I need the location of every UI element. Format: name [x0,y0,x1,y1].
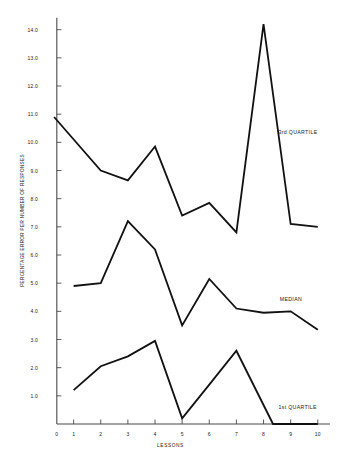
y-tick-label: 3.0 [12,337,38,343]
y-tick-label: 11.0 [12,111,38,117]
y-tick-label: 6.0 [12,252,38,258]
x-tick-label: 1 [72,431,75,437]
series-line [74,221,318,329]
series-line [74,341,318,424]
y-tick-label: 10.0 [12,139,38,145]
y-tick-label: 13.0 [12,55,38,61]
y-tick-label: 8.0 [12,196,38,202]
y-tick-label: 1.0 [12,393,38,399]
series-label: 3rd QUARTILE [278,129,317,135]
y-tick-label: 12.0 [12,83,38,89]
series-label: 1st QUARTILE [278,404,316,410]
chart-figure: PERCENTAGE ERROR PER NUMBER OF RESPONSES… [0,0,341,457]
y-tick-label: 4.0 [12,308,38,314]
series-label: MEDIAN [280,296,302,302]
y-tick-label: 5.0 [12,280,38,286]
x-tick-label: 7 [235,431,238,437]
x-tick-label: 8 [262,431,265,437]
x-tick-label: 4 [154,431,157,437]
x-tick-label: 5 [181,431,184,437]
axes [57,18,330,424]
x-tick-label: 3 [126,431,129,437]
x-axis-title: LESSONS [0,443,341,448]
x-tick-label: 10 [315,431,321,437]
x-tick-label: 9 [289,431,292,437]
series-lines [54,24,318,424]
x-tick-label: 0 [55,431,58,437]
series-line [54,24,318,232]
x-tick-label: 2 [99,431,102,437]
y-tick-label: 9.0 [12,168,38,174]
y-axis-title: PERCENTAGE ERROR PER NUMBER OF RESPONSES [20,121,25,321]
y-tick-label: 14.0 [12,27,38,33]
plot-area [0,0,341,457]
y-tick-label: 2.0 [12,365,38,371]
x-tick-label: 6 [208,431,211,437]
y-tick-label: 7.0 [12,224,38,230]
